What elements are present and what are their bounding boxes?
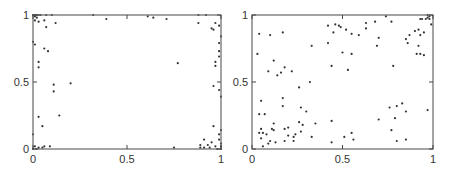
data-point xyxy=(376,45,378,47)
data-point xyxy=(332,31,334,33)
data-point xyxy=(265,133,267,135)
data-point xyxy=(352,139,354,141)
data-point xyxy=(70,82,72,84)
data-point xyxy=(274,141,276,143)
data-point xyxy=(358,34,360,36)
data-point xyxy=(291,70,293,72)
data-point xyxy=(378,37,380,39)
data-point xyxy=(36,17,38,19)
data-point xyxy=(408,34,410,36)
data-point xyxy=(340,26,342,28)
data-point xyxy=(218,55,220,57)
data-point xyxy=(427,17,429,19)
data-point xyxy=(417,45,419,47)
y-tick-label: 0.5 xyxy=(233,76,248,88)
data-point xyxy=(405,38,407,40)
data-point xyxy=(273,122,275,124)
data-point xyxy=(390,21,392,23)
data-point xyxy=(305,110,307,112)
data-point xyxy=(53,90,55,92)
x-tick-label: 0.5 xyxy=(335,153,350,165)
data-point xyxy=(197,22,199,24)
data-point xyxy=(258,33,260,35)
left-scatter-panel: 000.50.511 xyxy=(14,9,224,165)
data-point xyxy=(302,124,304,126)
data-point xyxy=(331,120,333,122)
data-point xyxy=(53,84,55,86)
data-point xyxy=(419,34,421,36)
data-point xyxy=(374,21,376,23)
data-point xyxy=(258,113,260,115)
y-tick-label: 0 xyxy=(242,143,248,155)
x-tick-label: 0 xyxy=(249,153,255,165)
data-point xyxy=(212,85,214,87)
data-point xyxy=(211,141,213,143)
data-point xyxy=(365,22,367,24)
data-point xyxy=(34,43,36,45)
scatter-charts: 000.50.511 000.50.511 xyxy=(0,0,449,172)
data-point xyxy=(430,23,432,25)
right-scatter-panel: 000.50.511 xyxy=(233,9,436,165)
y-tick-label: 1 xyxy=(23,9,29,21)
data-point xyxy=(34,19,36,21)
data-point xyxy=(351,33,353,35)
data-point xyxy=(293,136,295,138)
data-point xyxy=(407,42,409,44)
data-point xyxy=(267,70,269,72)
data-point xyxy=(311,136,313,138)
data-point xyxy=(390,129,392,131)
data-point xyxy=(211,27,213,29)
data-point xyxy=(212,125,214,127)
y-tick-label: 0 xyxy=(23,143,29,155)
data-point xyxy=(396,105,398,107)
data-point xyxy=(365,27,367,29)
data-point xyxy=(55,22,57,24)
data-point xyxy=(262,132,264,134)
data-point xyxy=(269,140,271,142)
data-point xyxy=(401,102,403,104)
y-tick-label: 0.5 xyxy=(14,76,29,88)
data-point xyxy=(43,145,45,147)
data-point xyxy=(414,30,416,32)
data-point xyxy=(394,117,396,119)
data-point xyxy=(389,106,391,108)
data-point xyxy=(58,114,60,116)
data-point xyxy=(287,135,289,137)
data-point xyxy=(218,139,220,141)
data-point xyxy=(347,69,349,71)
data-point xyxy=(34,145,36,147)
data-point xyxy=(256,53,258,55)
data-point xyxy=(38,66,40,68)
data-point xyxy=(260,100,262,102)
data-point xyxy=(282,97,284,99)
data-point xyxy=(351,53,353,55)
data-point xyxy=(293,140,295,142)
data-point xyxy=(351,132,353,134)
data-point xyxy=(423,31,425,33)
data-point xyxy=(294,133,296,135)
data-point xyxy=(47,50,49,52)
data-point xyxy=(282,31,284,33)
data-point xyxy=(276,74,278,76)
data-point xyxy=(218,133,220,135)
data-point xyxy=(327,42,329,44)
x-tick-label: 1 xyxy=(430,153,436,165)
data-point xyxy=(43,19,45,21)
x-tick-label: 0 xyxy=(30,153,36,165)
data-point xyxy=(218,42,220,44)
data-point xyxy=(405,110,407,112)
data-point xyxy=(214,145,216,147)
data-point xyxy=(280,72,282,74)
data-point xyxy=(416,53,418,55)
data-point xyxy=(41,125,43,127)
data-point xyxy=(262,145,264,147)
x-tick-label: 0.5 xyxy=(119,153,134,165)
data-point xyxy=(421,18,423,20)
x-tick-label: 1 xyxy=(218,153,224,165)
data-point xyxy=(207,144,209,146)
data-point xyxy=(212,29,214,31)
data-point xyxy=(260,128,262,130)
data-point xyxy=(45,26,47,28)
data-point xyxy=(345,29,347,31)
data-point xyxy=(341,51,343,53)
